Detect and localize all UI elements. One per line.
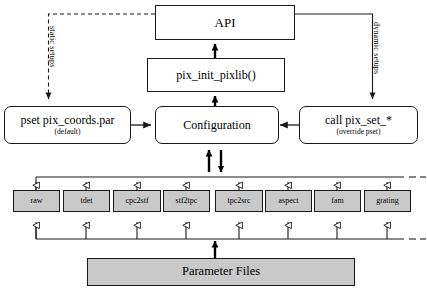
bottom-bus-line (36, 226, 426, 239)
module-label: tpc2src (227, 197, 250, 205)
edge-dynamic-setups (295, 14, 373, 99)
edge-label-static-setups: static setups (48, 26, 57, 67)
module-up-connectors (36, 182, 387, 190)
node-api[interactable]: API (155, 5, 295, 40)
node-pset-pix-coords-sublabel: (default) (55, 128, 81, 136)
module-label: raw (31, 197, 43, 205)
module-box-grating[interactable]: grating (364, 190, 411, 212)
module-box-aspect[interactable]: aspect (265, 190, 312, 212)
module-down-connectors (36, 222, 387, 239)
node-pset-pix-coords-label: pset pix_coords.par (21, 114, 115, 127)
node-api-label: API (215, 16, 236, 30)
node-call-pix-set[interactable]: call pix_set_* (override pset) (299, 106, 418, 144)
top-bus-line (36, 177, 426, 190)
module-label: stf2tpc (176, 197, 198, 205)
connector-layer (0, 0, 427, 292)
module-label: tdet (81, 197, 93, 205)
module-box-fam[interactable]: fam (314, 190, 361, 212)
module-box-tpc2src[interactable]: tpc2src (215, 190, 263, 212)
node-parameter-files-label: Parameter Files (182, 265, 260, 278)
module-label: grating (376, 197, 399, 205)
node-pset-pix-coords[interactable]: pset pix_coords.par (default) (4, 106, 131, 144)
module-label: fam (331, 197, 343, 205)
node-parameter-files[interactable]: Parameter Files (87, 258, 355, 286)
node-configuration-label: Configuration (183, 119, 250, 132)
node-pix-init-pixlib-label: pix_init_pixlib() (176, 69, 255, 82)
module-box-cpc2stf[interactable]: cpc2stf (113, 190, 161, 212)
node-pix-init-pixlib[interactable]: pix_init_pixlib() (147, 58, 285, 92)
diagram-canvas: API pix_init_pixlib() Configuration pset… (0, 0, 427, 292)
node-call-pix-set-label: call pix_set_* (325, 114, 392, 127)
module-label: cpc2stf (125, 197, 148, 205)
module-box-tdet[interactable]: tdet (63, 190, 110, 212)
node-configuration[interactable]: Configuration (155, 106, 279, 144)
edge-label-dynamic-setups: dynamic setups (372, 22, 381, 74)
edge-static-setups (49, 14, 156, 99)
module-box-raw[interactable]: raw (13, 190, 60, 212)
module-box-stf2tpc[interactable]: stf2tpc (163, 190, 210, 212)
node-call-pix-set-sublabel: (override pset) (337, 128, 381, 136)
module-label: aspect (279, 197, 299, 205)
